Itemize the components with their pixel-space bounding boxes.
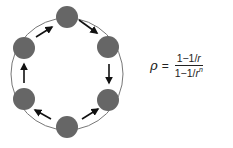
node-lower-left xyxy=(13,88,35,110)
denominator: 1−1/rn xyxy=(173,66,205,79)
denominator-text: 1−1/ xyxy=(175,67,196,79)
fraction: 1−1/r 1−1/rn xyxy=(173,52,205,79)
numerator-text: 1−1/ xyxy=(177,52,198,64)
fixation-probability-formula: ρ = 1−1/r 1−1/rn xyxy=(150,52,205,79)
arrow-upper-left-to-top-icon xyxy=(36,27,52,37)
numerator: 1−1/r xyxy=(175,52,203,66)
arrow-bottom-to-lower-right-icon xyxy=(82,109,98,119)
node-lower-right xyxy=(97,89,119,111)
numerator-var: r xyxy=(197,52,201,64)
cycle-ring xyxy=(11,18,123,130)
node-bottom xyxy=(56,116,78,138)
rho-symbol: ρ xyxy=(150,58,158,73)
nodes-group xyxy=(13,6,119,138)
arrows-group xyxy=(24,20,109,119)
arrow-bottom-to-lower-left-icon xyxy=(35,110,51,119)
node-upper-right xyxy=(97,36,119,58)
exponent: n xyxy=(199,66,203,73)
equals-sign: = xyxy=(162,59,169,73)
node-top xyxy=(56,6,78,28)
node-upper-left xyxy=(13,37,35,59)
